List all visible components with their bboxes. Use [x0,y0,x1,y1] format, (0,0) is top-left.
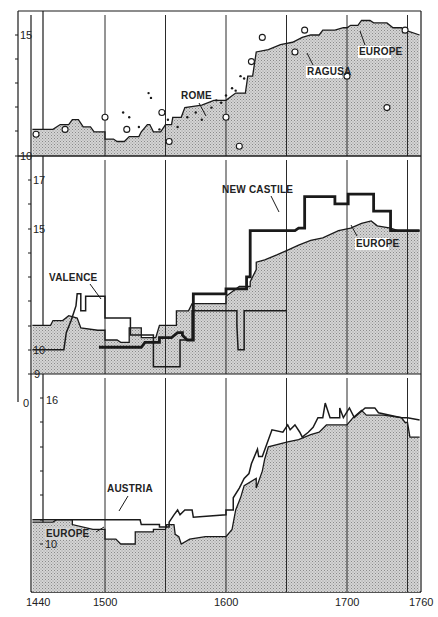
rome-dot [158,128,160,130]
rome-dot [128,116,130,118]
label-austria: AUSTRIA [107,483,153,494]
rome-dot [122,111,124,113]
rome-dot [138,126,140,128]
label-europe-top: EUROPE [359,46,403,57]
ragusa-marker [236,143,242,149]
rome-dot [186,116,188,118]
rome-dot [147,92,149,94]
outer-y-0: 0 [23,397,29,409]
rome-dot [220,102,222,104]
rome-dot [243,77,245,79]
panel3-y-16: 16 [46,394,58,406]
label-new-castile: NEW CASTILE [222,184,293,195]
rome-dot [215,99,217,101]
panel2-y-10: 10 [33,344,45,356]
x-axis-labels: 1440 1500 1600 1700 1760 [26,596,433,608]
rome-dot [225,94,227,96]
label-europe-mid: EUROPE [356,238,400,249]
panel1-y-10: 10 [20,150,32,162]
label-europe-bottom: EUROPE [46,528,90,539]
label-valence: VALENCE [49,272,98,283]
ragusa-marker [223,114,229,120]
price-history-chart: 15 10 17 15 10 9 0 16 10 1440 1500 1600 … [0,0,438,617]
rome-dot [239,75,241,77]
panel1-y-15: 15 [20,29,32,41]
rome-dot [231,87,233,89]
y-axis-ticks [15,35,43,544]
label-ragusa: RAGUSA [307,66,352,77]
rome-dot [201,119,203,121]
ragusa-marker [102,114,108,120]
y-axis-labels: 15 10 17 15 10 9 0 16 10 [20,29,58,550]
ragusa-marker [292,49,298,55]
ragusa-marker [124,126,130,132]
panel2-y-15: 15 [33,223,45,235]
rome-dot [195,111,197,113]
ragusa-marker [402,27,408,33]
label-rome: ROME [181,90,212,101]
x-tick-1600: 1600 [214,596,238,608]
ragusa-marker [33,131,39,137]
x-tick-1500: 1500 [93,596,117,608]
panel2-y-9: 9 [34,368,40,380]
rome-dot [234,89,236,91]
rome-dot [167,119,169,121]
ragusa-marker [166,138,172,144]
panel2-y-17: 17 [33,174,45,186]
x-tick-1440: 1440 [26,596,50,608]
rome-dot [176,126,178,128]
ragusa-marker [62,126,68,132]
ragusa-marker [302,27,308,33]
ragusa-marker [259,34,265,40]
ragusa-marker [248,59,254,65]
x-tick-1700: 1700 [335,596,359,608]
x-tick-1760: 1760 [409,596,433,608]
rome-dot [210,106,212,108]
rome-dot [150,97,152,99]
ragusa-marker [159,109,165,115]
ragusa-marker [384,105,390,111]
